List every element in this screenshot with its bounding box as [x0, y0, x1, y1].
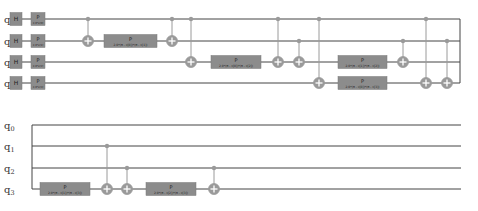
- qubit-label: q0: [4, 120, 15, 134]
- phase-gate: P2.0*x[3]: [31, 77, 45, 90]
- gate-parameter: 2.0*x[0]: [33, 22, 44, 25]
- gate-parameter: 2.0*(π - x[2])*(π - x[3]): [154, 191, 188, 195]
- control-dot-icon: [401, 39, 405, 43]
- qubit-label-subscript: 3: [10, 189, 14, 197]
- control-dot-icon: [170, 17, 174, 21]
- control-dot-icon: [445, 39, 449, 43]
- gate-label: P: [36, 57, 39, 63]
- cnot-gate: [83, 17, 94, 47]
- hadamard-gate: H: [10, 56, 22, 69]
- gate-label: P: [129, 36, 132, 42]
- cnot-gate: [398, 39, 409, 68]
- qubit-label: q3: [4, 184, 15, 198]
- control-dot-icon: [125, 166, 129, 170]
- control-dot-icon: [276, 17, 280, 21]
- gate-parameter: 2.0*(π - x[0])*(π - x[3]): [345, 85, 379, 89]
- cnot-gate: [122, 166, 133, 195]
- qubit-label-subscript: 2: [10, 168, 14, 176]
- phase-gate: P2.0*(π - x[0])*(π - x[3]): [338, 77, 387, 90]
- block-2: q0q1q2q3P2.0*(π - x[1])*(π - x[3])P2.0*(…: [4, 120, 461, 198]
- gate-label: P: [234, 57, 237, 63]
- qubit-label: q1: [4, 141, 15, 155]
- gate-label: P: [36, 14, 39, 20]
- gate-label: P: [361, 78, 364, 84]
- hadamard-gate: H: [10, 35, 22, 48]
- gate-parameter: 2.0*(π - x[1])*(π - x[3]): [48, 191, 82, 195]
- gate-label: H: [14, 15, 19, 22]
- qubit-label: q2: [4, 163, 15, 177]
- control-dot-icon: [105, 144, 109, 148]
- phase-gate: P2.0*x[0]: [31, 13, 45, 26]
- quantum-circuit-diagram: q0q1q2q3HHHHP2.0*x[0]P2.0*x[1]P2.0*x[2]P…: [0, 0, 478, 211]
- cnot-gate: [167, 17, 178, 47]
- gate-label: P: [36, 78, 39, 84]
- hadamard-gate: H: [10, 13, 22, 26]
- gate-parameter: 2.0*(π - x[0])*(π - x[2]): [219, 64, 253, 68]
- control-dot-icon: [86, 17, 90, 21]
- gate-label: H: [14, 58, 19, 65]
- gate-label: P: [63, 184, 66, 190]
- phase-gate: P2.0*(π - x[1])*(π - x[3]): [40, 183, 90, 196]
- cnot-gate: [273, 17, 284, 68]
- control-dot-icon: [297, 39, 301, 43]
- cnot-gate: [314, 17, 325, 89]
- gate-label: P: [36, 36, 39, 42]
- qubit-label-subscript: 1: [10, 146, 14, 154]
- gate-parameter: 2.0*x[3]: [33, 86, 44, 89]
- phase-gate: P2.0*(π - x[1])*(π - x[2]): [338, 56, 387, 69]
- gate-parameter: 2.0*x[1]: [33, 44, 44, 47]
- cnot-gate: [294, 39, 305, 68]
- block-1: q0q1q2q3HHHHP2.0*x[0]P2.0*x[1]P2.0*x[2]P…: [4, 13, 460, 92]
- cnot-gate: [442, 39, 453, 89]
- gate-label: H: [14, 79, 19, 86]
- phase-gate: P2.0*(π - x[0])*(π - x[2]): [211, 56, 261, 69]
- gate-parameter: 2.0*(π - x[0])*(π - x[1]): [113, 43, 147, 47]
- control-dot-icon: [317, 17, 321, 21]
- gate-parameter: 2.0*x[2]: [33, 65, 44, 68]
- cnot-gate: [186, 17, 197, 68]
- control-dot-icon: [189, 17, 193, 21]
- cnot-gate: [209, 166, 220, 195]
- gate-label: P: [361, 57, 364, 63]
- control-dot-icon: [212, 166, 216, 170]
- control-dot-icon: [424, 17, 428, 21]
- phase-gate: P2.0*(π - x[0])*(π - x[1]): [104, 35, 157, 48]
- gate-label: P: [169, 184, 172, 190]
- phase-gate: P2.0*(π - x[2])*(π - x[3]): [146, 183, 196, 196]
- cnot-gate: [421, 17, 432, 89]
- phase-gate: P2.0*x[2]: [31, 56, 45, 69]
- gate-label: H: [14, 37, 19, 44]
- cnot-gate: [102, 144, 113, 195]
- qubit-label-subscript: 0: [10, 125, 14, 133]
- hadamard-gate: H: [10, 77, 22, 90]
- gate-parameter: 2.0*(π - x[1])*(π - x[2]): [345, 64, 379, 68]
- phase-gate: P2.0*x[1]: [31, 35, 45, 48]
